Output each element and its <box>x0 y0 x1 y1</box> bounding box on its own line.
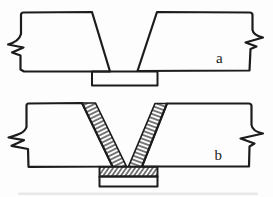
figure-b-right-face-cladding <box>129 104 168 167</box>
figure-a-right-plate <box>138 12 264 71</box>
scan-artifact <box>18 193 258 195</box>
figure-b-backing-strip <box>100 177 158 187</box>
figure-a-label: a <box>216 50 223 66</box>
figure-b: b <box>9 103 264 187</box>
figure-b-left-face-cladding <box>82 103 127 167</box>
diagram-canvas: a b <box>0 0 273 197</box>
figure-b-label: b <box>215 147 223 163</box>
figure-a-left-plate <box>8 12 110 72</box>
figure-a: a <box>8 12 263 86</box>
figure-b-strip-cladding <box>100 167 158 177</box>
weld-joint-diagram: a b <box>0 0 273 197</box>
figure-a-backing-strip <box>92 72 158 86</box>
